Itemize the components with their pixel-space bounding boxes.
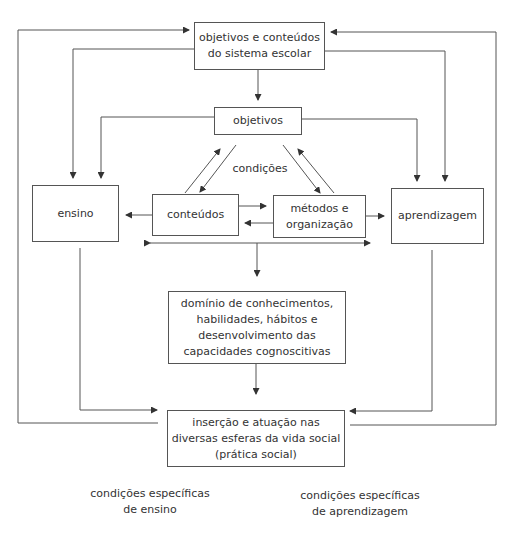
box-text: do sistema escolar [208, 46, 311, 62]
label-text: de aprendizagem [290, 504, 430, 520]
label-text: de ensino [80, 502, 220, 518]
box-text: inserção e atuação nas [192, 415, 319, 431]
label-text: condições específicas [290, 488, 430, 504]
box-text: conteúdos [167, 207, 224, 223]
box-objetivos: objetivos [214, 107, 302, 135]
box-text: (prática social) [215, 447, 297, 463]
box-text: domínio de conhecimentos, [181, 296, 333, 312]
box-text: objetivos [233, 113, 283, 129]
box-text: métodos e [290, 201, 348, 217]
box-text: ensino [57, 206, 93, 222]
box-insercao: inserção e atuação nas diversas esferas … [167, 410, 345, 467]
box-text: diversas esferas da vida social [172, 431, 341, 447]
label-condicoes-aprendizagem: condições específicas de aprendizagem [290, 488, 430, 520]
box-text: desenvolvimento das [198, 328, 316, 344]
box-text: organização [286, 217, 353, 233]
box-sistema-escolar: objetivos e conteúdos do sistema escolar [194, 22, 325, 70]
box-text: objetivos e conteúdos [199, 30, 320, 46]
box-dominio: domínio de conhecimentos, habilidades, h… [168, 291, 346, 364]
box-text: capacidades cognoscitivas [184, 344, 331, 360]
label-condicoes-ensino: condições específicas de ensino [80, 486, 220, 518]
box-ensino: ensino [32, 185, 119, 242]
box-conteudos: conteúdos [152, 194, 239, 236]
box-aprendizagem: aprendizagem [391, 188, 484, 244]
label-condicoes: condições [225, 161, 295, 177]
box-text: habilidades, hábitos e [197, 312, 318, 328]
box-text: aprendizagem [398, 208, 477, 224]
box-metodos: métodos e organização [273, 195, 366, 238]
label-text: condições específicas [80, 486, 220, 502]
